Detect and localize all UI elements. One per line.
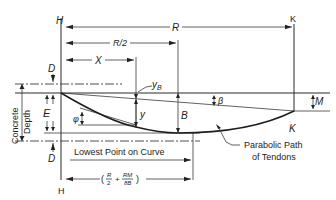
label-b: B xyxy=(181,110,188,121)
svg-text:+: + xyxy=(115,175,120,184)
label-d-top: D xyxy=(48,63,55,74)
label-depth: Depth xyxy=(22,110,32,134)
label-lowest-point: Lowest Point on Curve xyxy=(74,147,165,157)
span-formula: ( R 2 + RM 8B ) xyxy=(101,172,139,186)
label-k-bottom: K xyxy=(289,123,297,134)
label-y: y xyxy=(139,109,146,120)
yb-leader xyxy=(138,86,152,92)
label-m: M xyxy=(315,96,324,107)
label-h-top: H xyxy=(56,15,64,26)
label-x: X xyxy=(94,55,102,66)
svg-text:8B: 8B xyxy=(124,180,131,186)
label-concrete: Concrete xyxy=(10,107,20,144)
label-parabolic-path: Parabolic Path xyxy=(244,140,303,150)
svg-text:(: ( xyxy=(101,174,104,184)
label-r-half: R/2 xyxy=(113,38,127,48)
label-of-tendons: of Tendons xyxy=(252,152,296,162)
label-h-bottom: H xyxy=(58,186,65,196)
svg-text:R: R xyxy=(107,172,112,178)
svg-text:RM: RM xyxy=(123,172,132,178)
label-e: E xyxy=(43,107,51,119)
tendon-diagram: H H K K R R/2 X D D E yB y B β φ M Concr… xyxy=(0,0,336,200)
tangent-line xyxy=(80,108,136,125)
label-d-bottom: D xyxy=(48,153,55,164)
svg-text:): ) xyxy=(136,174,139,184)
label-r: R xyxy=(172,22,179,33)
label-k-top: K xyxy=(290,14,296,24)
label-beta: β xyxy=(217,96,223,106)
svg-text:2: 2 xyxy=(107,180,111,186)
label-phi: φ xyxy=(73,114,79,124)
label-y-b: yB xyxy=(151,79,162,91)
